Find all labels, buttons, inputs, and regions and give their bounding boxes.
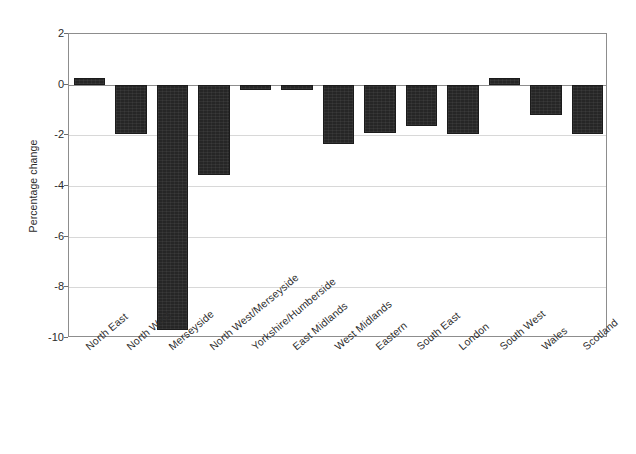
x-axis-tick-label: North East (83, 310, 130, 352)
x-axis-tick-label: Scotland (580, 316, 620, 352)
x-axis-tick-label: North West (124, 308, 173, 352)
x-axis-tick-label: Eastern (373, 319, 409, 352)
x-axis-tick-label: London (456, 320, 491, 352)
x-axis-tick-label: South East (414, 309, 462, 352)
bar-chart: Percentage change 20-2-4-6-8-10 North Ea… (0, 0, 636, 454)
x-axis-tick-labels: North EastNorth WestMerseysideNorth West… (0, 0, 636, 454)
x-axis-tick-label: Wales (539, 324, 569, 352)
